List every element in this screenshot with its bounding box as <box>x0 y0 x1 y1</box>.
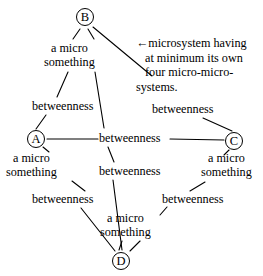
micro-label-top-line2: something <box>44 55 95 69</box>
left-arrow-icon: ← <box>136 36 148 50</box>
edge-betweenness-center-to-lower-mid <box>108 147 114 162</box>
edge-micro-right-to-betweenness-lower-right <box>190 182 205 191</box>
node-c-label: C <box>230 135 238 148</box>
micro-label-right-line2: something <box>201 165 252 179</box>
micro-label-left: a micro something <box>6 151 57 179</box>
edge-b-to-micro-top-right <box>88 29 94 39</box>
betweenness-label-lower-right: betweenness <box>162 192 224 206</box>
edge-betweenness-lower-right-to-micro-bottom <box>160 207 167 215</box>
annotation-text-1: microsystem having <box>148 36 247 50</box>
micro-label-top-line1: a micro <box>44 41 95 55</box>
node-a[interactable]: A <box>27 130 45 148</box>
edge-betweenness-center-to-node-c <box>170 139 224 140</box>
micro-label-top: a micro something <box>44 41 95 69</box>
edge-betweenness-upper-left-to-node-a <box>36 115 46 129</box>
annotation-line-3: four micro-micro- <box>136 65 262 80</box>
edge-betweenness-upper-right-to-node-c <box>203 118 232 131</box>
node-d-label: D <box>116 255 125 268</box>
micro-label-bottom-line2: something <box>100 225 151 239</box>
annotation-line-1: ←microsystem having <box>136 36 262 51</box>
betweenness-label-center: betweenness <box>99 131 161 145</box>
betweenness-label-lower-mid: betweenness <box>99 164 161 178</box>
edge-b-to-micro-top-left <box>73 29 80 39</box>
node-b[interactable]: B <box>76 8 94 26</box>
node-d[interactable]: D <box>112 252 130 270</box>
node-c[interactable]: C <box>225 132 243 150</box>
edge-micro-top-to-betweenness-center <box>95 72 104 128</box>
annotation-line-2: at minimum its own <box>136 51 262 66</box>
betweenness-label-upper-left: betweenness <box>32 99 94 113</box>
micro-label-left-line1: a micro <box>6 151 57 165</box>
micro-label-bottom: a micro something <box>100 211 151 239</box>
micro-label-bottom-line1: a micro <box>100 211 151 225</box>
micro-label-left-line2: something <box>6 165 57 179</box>
annotation-callout: ←microsystem having at minimum its own f… <box>136 36 262 94</box>
edge-micro-left-to-betweenness-lower-left <box>72 181 85 191</box>
edge-micro-top-to-betweenness-upper-left <box>57 72 68 97</box>
node-a-label: A <box>31 133 40 146</box>
micro-label-right-line1: a micro <box>201 151 252 165</box>
edge-micro-bottom-to-node-d-right <box>130 241 140 251</box>
annotation-line-4: systems. <box>136 80 262 95</box>
micro-label-right: a micro something <box>201 151 252 179</box>
betweenness-label-upper-right: betweenness <box>152 102 214 116</box>
node-link-diagram: B A C D a micro something a micro someth… <box>0 0 263 276</box>
betweenness-label-lower-left: betweenness <box>32 192 94 206</box>
node-b-label: B <box>81 11 89 24</box>
